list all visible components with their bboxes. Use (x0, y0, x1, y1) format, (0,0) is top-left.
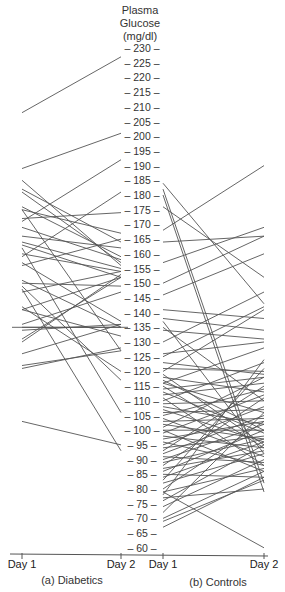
y-tick-label: – 115 – (125, 380, 159, 392)
y-tick-label: – 70 – (127, 512, 156, 524)
y-tick-label: – 205 – (124, 116, 159, 128)
controls-lines (163, 166, 264, 548)
y-tick-label: – 180 – (124, 189, 159, 201)
slope-chart: – 230 –– 225 –– 220 –– 215 –– 210 –– 205… (0, 0, 285, 592)
subject-line (163, 207, 264, 278)
subject-line (22, 307, 121, 372)
subject-line (22, 348, 121, 369)
subject-line (22, 133, 121, 168)
subject-line (163, 424, 264, 459)
y-tick-label: – 65 – (127, 527, 156, 539)
y-tick-label: – 105 – (124, 410, 159, 422)
subject-line (22, 280, 121, 327)
subject-line (163, 348, 264, 383)
y-tick-label: – 140 – (124, 307, 159, 319)
y-tick-label: – 230 – (124, 42, 159, 54)
subject-line (163, 318, 264, 330)
y-tick-label: – 175 – (124, 204, 159, 216)
y-tick-label: – 195 – (124, 145, 159, 157)
subject-line (22, 160, 121, 222)
subject-line (22, 289, 121, 451)
y-tick-label: – 90 – (127, 454, 156, 466)
y-tick-label: – 185 – (124, 174, 159, 186)
y-tick-label: – 120 – (124, 365, 159, 377)
y-tick-label: – 190 – (124, 160, 159, 172)
y-tick-label: – 225 – (124, 57, 159, 69)
y-tick-label: – 95 – (127, 439, 156, 451)
y-tick-label: – 75 – (127, 498, 156, 510)
x-axis-labels: Day 1Day 2Day 1Day 2(a) Diabetics(b) Con… (8, 558, 279, 588)
y-tick-label: – 80 – (127, 483, 156, 495)
y-tick-label: – 200 – (124, 130, 159, 142)
group-label-diabetics: (a) Diabetics (41, 574, 103, 586)
y-tick-label: – 125 – (124, 351, 159, 363)
x-tick-label: Day 1 (8, 558, 37, 570)
y-tick-label: – 130 – (124, 336, 159, 348)
y-tick-label: – 165 – (124, 233, 159, 245)
y-tick-label: – 170 – (124, 218, 159, 230)
y-tick-label: – 210 – (124, 101, 159, 113)
subject-line (22, 254, 121, 272)
subject-line (163, 460, 264, 507)
y-tick-label: – 60 – (127, 542, 156, 554)
y-tick-label: – 135 – (124, 321, 159, 333)
subject-line (163, 489, 264, 498)
x-tick-label: Day 2 (250, 558, 279, 570)
y-tick-label: – 110 – (125, 395, 159, 407)
y-tick-label: – 160 – (124, 248, 159, 260)
y-tick-label: – 145 – (124, 292, 159, 304)
x-axis (10, 553, 268, 559)
subject-line (163, 166, 264, 231)
x-axis-line (10, 554, 268, 556)
subject-line (22, 192, 121, 257)
y-tick-label: – 220 – (124, 71, 159, 83)
subject-line (22, 286, 121, 380)
x-tick-label: Day 1 (149, 558, 178, 570)
diabetics-lines (12, 57, 128, 451)
subject-line (22, 57, 121, 113)
y-tick-label: – 100 – (124, 424, 159, 436)
y-tick-label: – 155 – (124, 263, 159, 275)
subject-line (22, 421, 121, 445)
y-tick-label: – 215 – (124, 86, 159, 98)
group-label-controls: (b) Controls (189, 576, 247, 588)
y-tick-label: – 85 – (127, 468, 156, 480)
y-axis-ticks: – 230 –– 225 –– 220 –– 215 –– 210 –– 205… (124, 42, 159, 554)
x-tick-label: Day 2 (107, 558, 136, 570)
y-tick-label: – 150 – (124, 277, 159, 289)
